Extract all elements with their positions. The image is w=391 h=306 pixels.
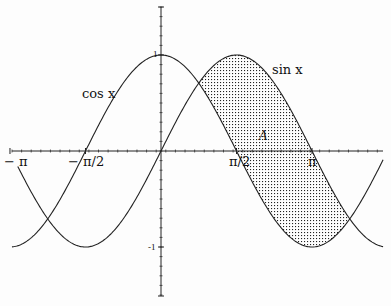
sin-label: sin x xyxy=(272,63,303,76)
tick-label-neg-pi-over-2: − π/2 xyxy=(68,155,104,168)
sin-cos-area-diagram: cos x sin x A − π − π/2 π/2 π 1 -1 xyxy=(0,0,391,306)
tick-label-pi: π xyxy=(308,155,317,168)
tick-label-y-neg-1: -1 xyxy=(148,243,156,252)
cos-label: cos x xyxy=(82,87,115,100)
tick-label-y-1: 1 xyxy=(153,50,158,59)
tick-label-neg-pi: − π xyxy=(4,155,28,168)
plot-canvas xyxy=(0,0,391,306)
tick-label-pi-over-2: π/2 xyxy=(229,155,250,168)
axes xyxy=(10,7,383,296)
region-a-label: A xyxy=(259,130,268,142)
